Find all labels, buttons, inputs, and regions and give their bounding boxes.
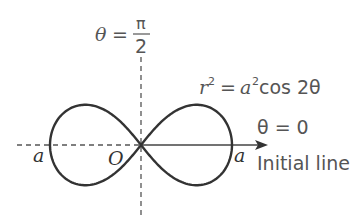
vertical-axis-label: θ = π 2 xyxy=(95,14,150,57)
origin-label: O xyxy=(108,147,124,169)
vertical-label-equals: = xyxy=(112,23,128,45)
equation-a-exponent: 2 xyxy=(252,75,259,88)
vertical-label-two: 2 xyxy=(135,35,147,57)
equation-r-exponent: 2 xyxy=(208,75,215,88)
right-intercept-label: a xyxy=(234,144,245,166)
equation-a: a xyxy=(240,76,251,98)
left-intercept-label: a xyxy=(33,144,44,166)
horizontal-axis-label: θ = 0 xyxy=(257,116,309,138)
lemniscate-diagram: θ = π 2 r 2 = a 2 cos 2θ θ = 0 Initial l… xyxy=(0,0,359,217)
equation-cos-term: cos 2θ xyxy=(259,76,321,98)
equation-equals: = xyxy=(220,76,236,98)
curve-equation-label: r 2 = a 2 cos 2θ xyxy=(199,75,321,98)
initial-line-label: Initial line xyxy=(257,152,350,174)
vertical-label-theta: θ xyxy=(95,23,107,45)
vertical-label-pi: π xyxy=(136,14,146,33)
